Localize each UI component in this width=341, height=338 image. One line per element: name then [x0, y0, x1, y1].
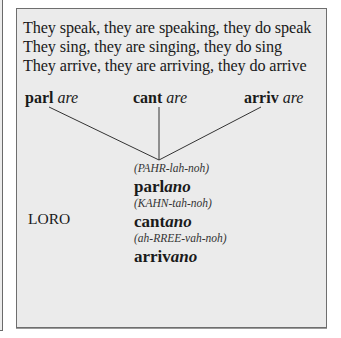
form-root: parl [134, 177, 164, 196]
subject-pronoun: LORO [28, 210, 70, 228]
adjacent-panel-edge [0, 0, 3, 331]
form-ending: ano [164, 177, 190, 196]
stem-ending: are [57, 89, 78, 106]
stem-ending: are [166, 89, 187, 106]
form-ending: ano [165, 212, 191, 231]
pronunciation-guide: (ah-RREE-vah-noh) [134, 232, 227, 244]
stem-ending: are [283, 89, 304, 106]
form-root: arriv [134, 247, 171, 266]
pronunciation-guide: (PAHR-lah-noh) [134, 162, 209, 174]
conjugated-form: parlano [134, 177, 191, 197]
form-root: cant [134, 212, 165, 231]
form-ending: ano [171, 247, 197, 266]
infinitive-arrivare: arriv are [244, 89, 303, 107]
stem-root: arriv [244, 89, 279, 106]
translation-line: They sing, they are singing, they do sin… [23, 38, 311, 57]
conjugated-form: arrivano [134, 247, 197, 267]
infinitive-cantare: cant are [133, 89, 187, 107]
translation-line: They speak, they are speaking, they do s… [23, 19, 311, 38]
pronunciation-guide: (KAHN-tah-noh) [134, 197, 212, 209]
english-translations: They speak, they are speaking, they do s… [23, 19, 311, 76]
conjugated-form: cantano [134, 212, 192, 232]
translation-line: They arrive, they are arriving, they do … [23, 57, 311, 76]
stem-root: parl [25, 89, 53, 106]
stem-root: cant [133, 89, 162, 106]
infinitive-parlare: parl are [25, 89, 78, 107]
